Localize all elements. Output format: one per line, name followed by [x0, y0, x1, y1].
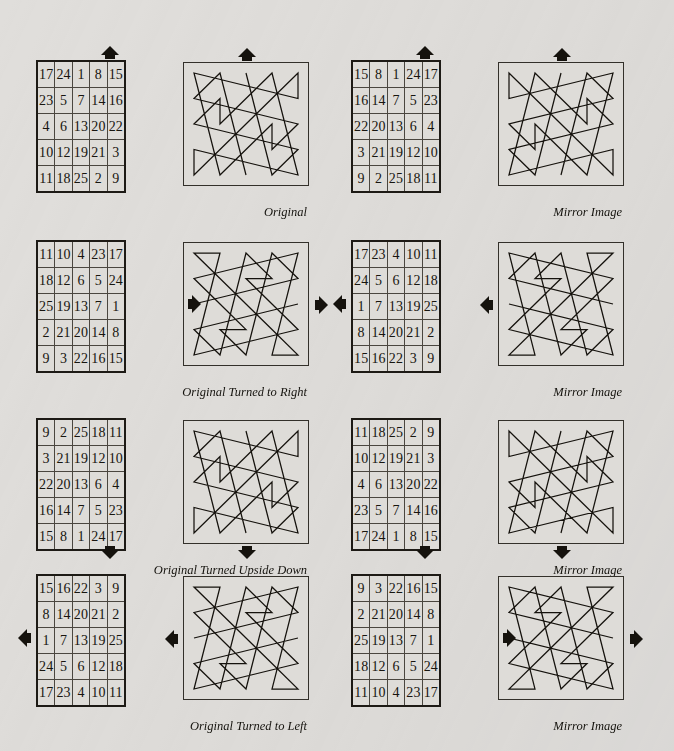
grid-cell: 25: [352, 628, 370, 654]
grid-cell: 4: [422, 114, 440, 140]
grid-cell: 4: [107, 472, 125, 498]
grid-cell: 17: [37, 61, 55, 88]
grid-cell: 2: [405, 419, 422, 446]
grid-cell: 17: [107, 241, 125, 268]
grid-cell: 13: [72, 114, 89, 140]
grid-cell: 1: [107, 294, 125, 320]
grid-cell: 21: [370, 602, 387, 628]
grid-cell: 15: [107, 346, 125, 373]
table-row: 321191210: [352, 140, 440, 166]
grid-cell: 8: [55, 524, 72, 551]
grid-cell: 21: [405, 320, 422, 346]
zigzag-path-svg: [499, 577, 623, 699]
table-row: 17131925: [37, 628, 125, 654]
table-row: 22120148: [352, 602, 440, 628]
orientation-arrow-right-icon: [192, 295, 201, 313]
table-row: 16147523: [37, 498, 125, 524]
magic-square-table: 9322161522120148251913711812652411104231…: [351, 574, 441, 707]
grid-cell: 25: [37, 294, 55, 320]
grid-cell: 20: [387, 320, 404, 346]
grid-cell: 15: [37, 524, 55, 551]
magic-square-table: 1724181523571416461320221012192131118252…: [36, 60, 126, 193]
zigzag-path-svg: [184, 421, 308, 543]
grid-cell: 18: [422, 268, 440, 294]
zigzag-path-svg: [184, 577, 308, 699]
grid-cell: 4: [72, 241, 89, 268]
grid-cell: 24: [405, 61, 422, 88]
grid-cell: 15: [422, 575, 440, 602]
zigzag-polyline: [509, 587, 613, 689]
grid-cell: 7: [387, 88, 404, 114]
grid-cell: 8: [422, 602, 440, 628]
grid-cell: 12: [90, 654, 107, 680]
grid-cell: 2: [90, 166, 107, 193]
grid-cell: 12: [405, 140, 422, 166]
grid-cell: 9: [422, 346, 440, 373]
magic-square-table: 9225181132119121022201364161475231581241…: [36, 418, 126, 551]
grid-cell: 16: [370, 346, 387, 373]
table-row: 111042317: [352, 680, 440, 707]
magic-square-table: 1723410112456121817131925814202121516223…: [351, 240, 441, 373]
grid-cell: 22: [422, 472, 440, 498]
grid-cell: 12: [405, 268, 422, 294]
grid-cell: 11: [107, 419, 125, 446]
table-row: 17131925: [352, 294, 440, 320]
grid-cell: 6: [387, 654, 404, 680]
grid-cell: 21: [90, 140, 107, 166]
grid-cell: 6: [370, 472, 387, 498]
grid-cell: 4: [72, 680, 89, 707]
grid-cell: 5: [55, 654, 72, 680]
zigzag-path-svg: [184, 63, 308, 185]
grid-cell: 25: [107, 628, 125, 654]
table-row: 321191210: [37, 446, 125, 472]
grid-cell: 8: [37, 602, 55, 628]
grid-cell: 24: [352, 268, 370, 294]
table-row: 24561218: [352, 268, 440, 294]
grid-cell: 8: [370, 61, 387, 88]
grid-cell: 14: [370, 88, 387, 114]
grid-cell: 3: [90, 575, 107, 602]
zigzag-panel: [498, 420, 624, 544]
grid-cell: 14: [370, 320, 387, 346]
grid-cell: 3: [55, 346, 72, 373]
grid-cell: 3: [37, 446, 55, 472]
orientation-arrow-down-icon: [416, 550, 434, 559]
magic-square-table: 1581241716147523222013643211912109225181…: [351, 60, 441, 193]
grid-cell: 12: [55, 268, 72, 294]
grid-cell: 24: [55, 61, 72, 88]
grid-cell: 13: [387, 294, 404, 320]
zigzag-panel: [183, 242, 309, 366]
grid-cell: 16: [107, 88, 125, 114]
grid-cell: 24: [37, 654, 55, 680]
grid-cell: 18: [405, 166, 422, 193]
zigzag-polyline: [194, 587, 298, 689]
grid-cell: 15: [107, 61, 125, 88]
grid-cell: 19: [72, 446, 89, 472]
grid-cell: 8: [90, 61, 107, 88]
table-row: 15162239: [37, 575, 125, 602]
grid-cell: 11: [352, 419, 370, 446]
table-row: 172341011: [352, 241, 440, 268]
table-row: 22120148: [37, 320, 125, 346]
grid-cell: 12: [370, 654, 387, 680]
grid-cell: 13: [72, 472, 89, 498]
grid-cell: 19: [370, 628, 387, 654]
grid-cell: 22: [352, 114, 370, 140]
table-row: 18126524: [37, 268, 125, 294]
grid-cell: 25: [387, 419, 404, 446]
grid-cell: 19: [405, 294, 422, 320]
grid-cell: 21: [405, 446, 422, 472]
grid-cell: 6: [55, 114, 72, 140]
table-row: 18126524: [352, 654, 440, 680]
grid-cell: 10: [37, 140, 55, 166]
table-row: 25191371: [352, 628, 440, 654]
grid-cell: 18: [55, 166, 72, 193]
grid-cell: 4: [37, 114, 55, 140]
grid-cell: 23: [37, 88, 55, 114]
grid-cell: 20: [55, 472, 72, 498]
grid-cell: 25: [72, 419, 89, 446]
zigzag-polyline: [509, 73, 613, 175]
grid-cell: 3: [422, 446, 440, 472]
grid-cell: 6: [405, 114, 422, 140]
table-row: 93221615: [352, 575, 440, 602]
